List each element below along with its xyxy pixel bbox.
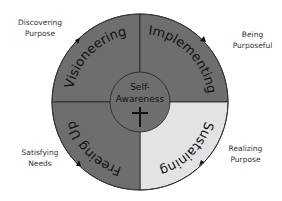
outer-label-discovering-purpose: Discovering Purpose	[5, 17, 75, 39]
center-label-line1: Self-	[130, 82, 150, 92]
center-label-line2: Awareness	[116, 94, 165, 104]
outer-label-satisfying-needs: Satisfying Needs	[5, 147, 75, 169]
outer-label-realizing-purpose: Realizing Purpose	[218, 143, 273, 165]
outer-label-being-purposeful: Being Purposeful	[225, 29, 280, 51]
cycle-diagram: Visioneering Implementing Sustaining Fre…	[0, 0, 282, 201]
